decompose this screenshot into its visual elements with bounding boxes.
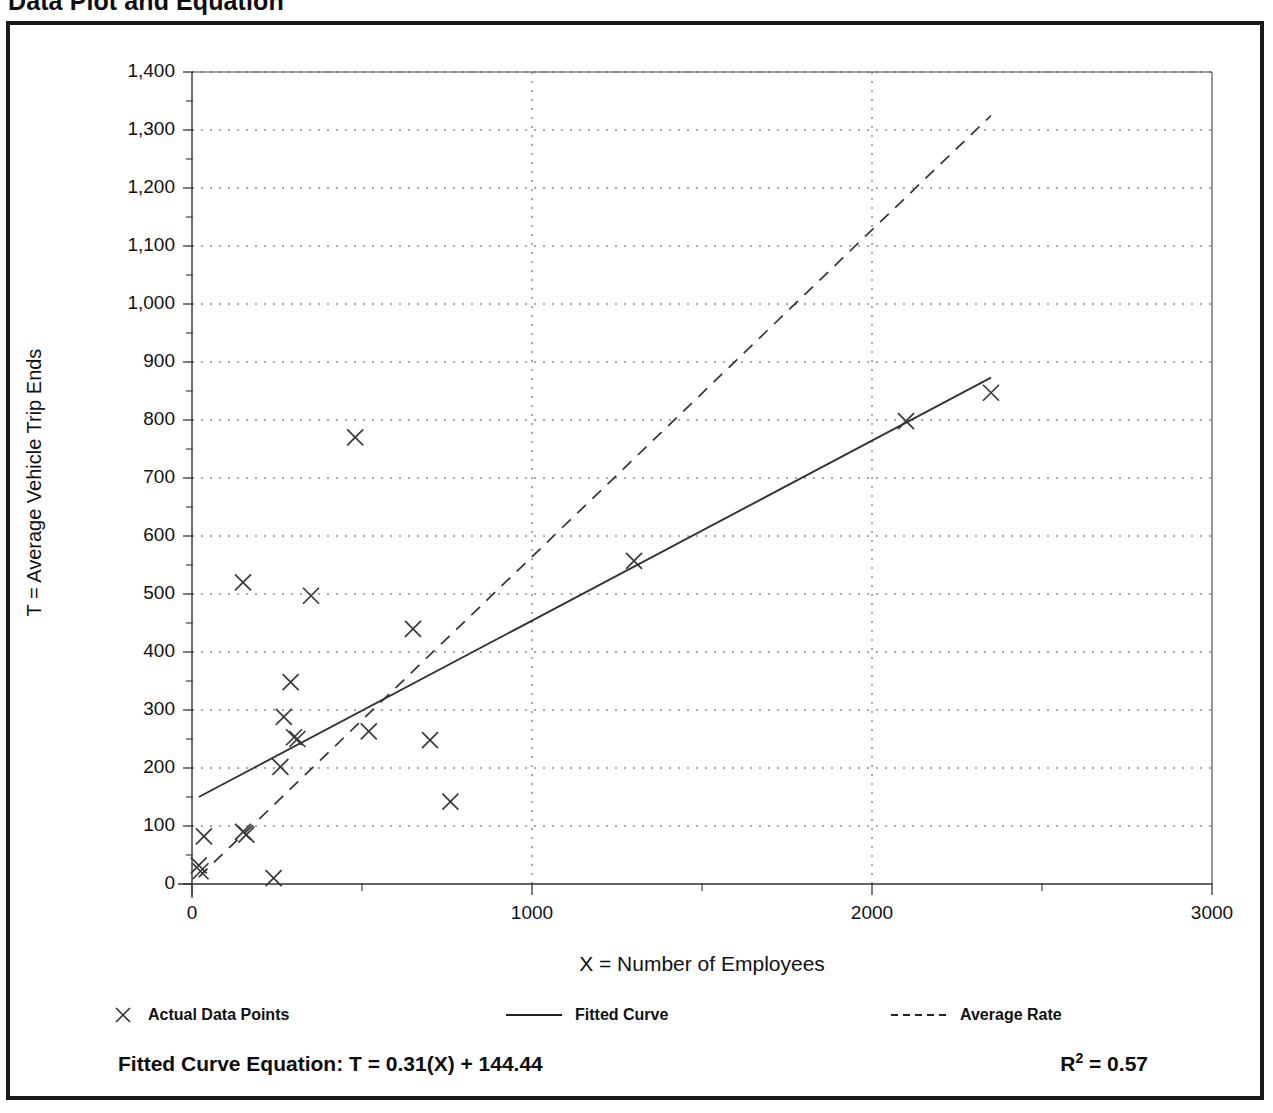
y-tick-label: 1,200: [57, 176, 175, 198]
y-tick-label: 1,300: [57, 118, 175, 140]
y-tick-label: 400: [57, 640, 175, 662]
chart-legend: Actual Data Points Fitted Curve Average …: [100, 1000, 1240, 1030]
r-squared-number: = 0.57: [1083, 1052, 1148, 1075]
equation-row: Fitted Curve Equation: T = 0.31(X) + 144…: [118, 1050, 1228, 1076]
y-tick-label: 100: [57, 814, 175, 836]
legend-item-fitted-curve: Fitted Curve: [505, 1000, 668, 1030]
dashed-line-icon: [890, 1004, 948, 1026]
y-tick-label: 1,400: [57, 60, 175, 82]
x-axis-title: X = Number of Employees: [192, 952, 1212, 976]
y-tick-label: 900: [57, 350, 175, 372]
y-axis-title: T = Average Vehicle Trip Ends: [23, 318, 46, 648]
legend-item-average-rate: Average Rate: [890, 1000, 1062, 1030]
legend-item-actual-data-points: Actual Data Points: [110, 1000, 289, 1030]
solid-line-icon: [505, 1004, 563, 1026]
fitted-curve-equation: Fitted Curve Equation: T = 0.31(X) + 144…: [118, 1052, 543, 1076]
legend-label-fitted-curve: Fitted Curve: [575, 1006, 668, 1024]
y-tick-label: 800: [57, 408, 175, 430]
legend-label-average-rate: Average Rate: [960, 1006, 1062, 1024]
x-tick-label: 3000: [1152, 902, 1272, 924]
figure-frame: [6, 21, 1264, 1100]
legend-label-actual-data-points: Actual Data Points: [148, 1006, 289, 1024]
x-tick-label: 0: [132, 902, 252, 924]
x-tick-label: 2000: [812, 902, 932, 924]
y-tick-label: 500: [57, 582, 175, 604]
marker-x-icon: [110, 1004, 136, 1026]
x-tick-label: 1000: [472, 902, 592, 924]
y-tick-label: 700: [57, 466, 175, 488]
y-tick-label: 0: [57, 872, 175, 894]
r-squared-value: R2 = 0.57: [1060, 1050, 1148, 1076]
r-squared-prefix: R: [1060, 1052, 1075, 1075]
y-tick-label: 1,000: [57, 292, 175, 314]
y-tick-label: 1,100: [57, 234, 175, 256]
page-title: Data Plot and Equation: [8, 0, 284, 16]
y-tick-label: 600: [57, 524, 175, 546]
y-tick-label: 300: [57, 698, 175, 720]
y-tick-label: 200: [57, 756, 175, 778]
